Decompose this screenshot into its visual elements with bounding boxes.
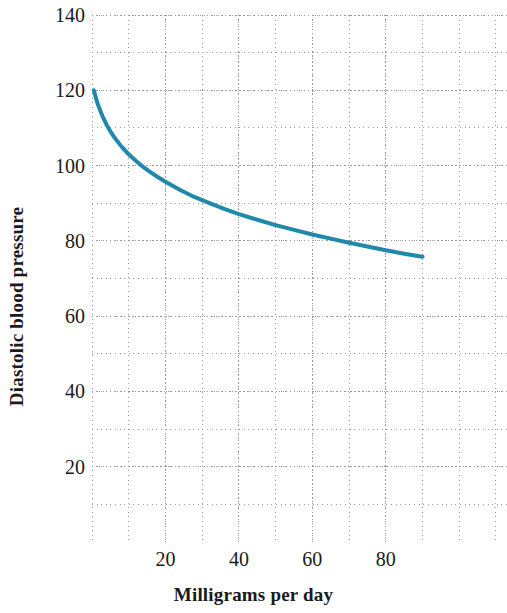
y-tick-label: 60 (30, 305, 85, 328)
x-tick-label: 40 (229, 548, 249, 571)
plot-area (92, 15, 507, 542)
chart-container: Diastolic blood pressure Milligrams per … (0, 0, 507, 613)
y-tick-label: 20 (30, 455, 85, 478)
y-tick-label: 100 (30, 154, 85, 177)
x-tick-label: 60 (302, 548, 322, 571)
y-tick-label: 120 (30, 79, 85, 102)
x-tick-label: 80 (376, 548, 396, 571)
y-tick-label: 40 (30, 380, 85, 403)
y-axis-title: Diastolic blood pressure (0, 0, 34, 613)
y-tick-label: 140 (30, 4, 85, 27)
data-curve (92, 15, 507, 542)
series-line (94, 90, 423, 256)
x-axis-title: Milligrams per day (0, 584, 507, 606)
y-tick-label: 80 (30, 229, 85, 252)
x-tick-label: 20 (155, 548, 175, 571)
